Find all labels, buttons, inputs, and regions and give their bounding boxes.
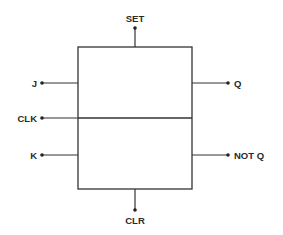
clr-label: CLR <box>125 215 145 226</box>
k-terminal-dot <box>40 153 44 157</box>
pin-k: K <box>30 150 78 161</box>
pin-clr: CLR <box>125 189 145 226</box>
pin-not-q: NOT Q <box>192 150 264 161</box>
clk-terminal-dot <box>40 116 44 120</box>
pin-j: J <box>32 78 78 89</box>
k-label: K <box>30 150 37 161</box>
j-terminal-dot <box>40 81 44 85</box>
jk-flip-flop-diagram: SET J CLK K Q NOT Q CLR <box>0 0 283 235</box>
clk-label: CLK <box>17 113 37 124</box>
not-q-terminal-dot <box>226 153 230 157</box>
set-label: SET <box>126 13 145 24</box>
set-terminal-dot <box>133 26 137 30</box>
j-label: J <box>32 78 37 89</box>
not-q-label: NOT Q <box>234 150 264 161</box>
pin-clk: CLK <box>17 113 78 124</box>
pin-q: Q <box>192 78 241 89</box>
clr-terminal-dot <box>133 208 137 212</box>
q-label: Q <box>234 78 241 89</box>
pin-set: SET <box>126 13 145 47</box>
q-terminal-dot <box>226 81 230 85</box>
